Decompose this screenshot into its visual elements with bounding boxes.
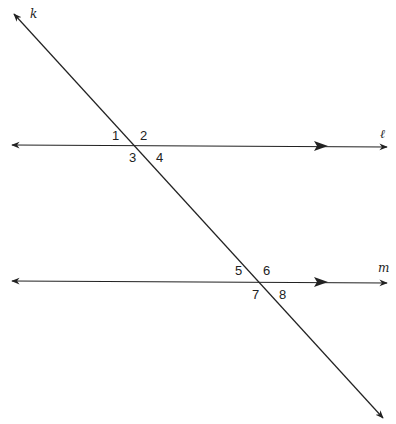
angle-2-label: 2 bbox=[140, 128, 147, 143]
angle-7-label: 7 bbox=[252, 287, 259, 302]
label-l: ℓ bbox=[380, 127, 385, 141]
parallel-line-m bbox=[12, 281, 387, 283]
parallel-marker-arrow-l bbox=[314, 141, 328, 151]
angle-5-label: 5 bbox=[235, 263, 242, 278]
angle-4-label: 4 bbox=[156, 150, 163, 165]
label-m: m bbox=[378, 261, 389, 275]
parallel-marker-arrow-m bbox=[314, 277, 328, 287]
angle-3-label: 3 bbox=[129, 150, 136, 165]
angle-1-label: 1 bbox=[112, 128, 119, 143]
parallel-lines-diagram: k ℓ m 1 2 3 4 5 6 7 8 bbox=[0, 0, 396, 424]
angle-6-label: 6 bbox=[263, 263, 270, 278]
transversal-line-k bbox=[14, 14, 383, 418]
parallel-line-l bbox=[12, 145, 387, 147]
angle-8-label: 8 bbox=[279, 287, 286, 302]
label-k: k bbox=[30, 7, 37, 21]
